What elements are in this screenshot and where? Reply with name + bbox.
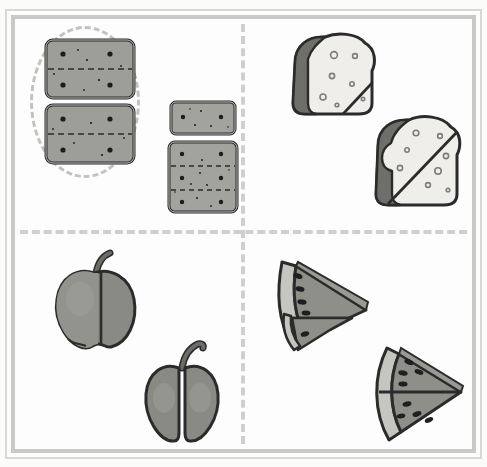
cracker-small-whole[interactable] <box>169 100 237 136</box>
worksheet-page: strawberry whole <box>0 0 487 467</box>
apple-offcenter-cut[interactable] <box>48 247 140 357</box>
divider-horizontal <box>20 230 467 234</box>
apple-halves[interactable] <box>134 338 230 450</box>
bread-slice-diagonal-half[interactable] <box>362 110 466 210</box>
cracker-top-halves[interactable] <box>44 38 136 100</box>
cracker-large-thirds[interactable] <box>167 140 239 214</box>
watermelon-equal-halves[interactable] <box>357 340 471 448</box>
bread-slice-corner-cut[interactable] <box>281 29 381 119</box>
cracker-bottom-halves[interactable] <box>44 103 136 165</box>
divider-vertical <box>241 24 245 444</box>
